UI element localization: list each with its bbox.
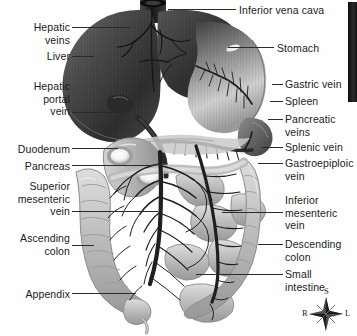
label-inferior-mesenteric-vein: Inferior mesenteric vein	[285, 194, 337, 232]
leader-small-intestine	[196, 274, 283, 275]
anatomy-figure: Hepatic veinsLiverHepatic portal veinDuo…	[0, 0, 357, 336]
compass-label-left: L	[345, 308, 350, 318]
orientation-compass: S R L	[300, 288, 352, 332]
leader-hepatic-portal-vein	[72, 112, 124, 113]
label-spleen: Spleen	[285, 95, 318, 108]
leader-liver	[72, 56, 94, 57]
leader-pancreatic-veins	[268, 119, 283, 120]
compass-label-right: R	[302, 308, 308, 318]
label-hepatic-veins: Hepatic veins	[8, 21, 70, 46]
label-pancreas: Pancreas	[2, 160, 70, 173]
leader-superior-mesenteric-vein	[72, 211, 158, 212]
label-ascending-colon: Ascending colon	[2, 232, 70, 257]
leader-inferior-mesenteric-vein	[222, 212, 283, 213]
label-gastric-vein: Gastric vein	[285, 78, 342, 91]
label-inferior-vena-cava: Inferior vena cava	[239, 4, 324, 17]
label-descending-colon: Descending colon	[285, 238, 341, 263]
leader-stomach	[228, 47, 274, 48]
page-edge-bar	[348, 2, 357, 102]
label-liver: Liver	[8, 50, 70, 63]
leader-pancreas	[72, 165, 150, 166]
label-appendix: Appendix	[2, 288, 70, 301]
label-splenic-vein: Splenic vein	[285, 141, 343, 154]
label-duodenum: Duodenum	[2, 143, 70, 156]
label-hepatic-portal-vein: Hepatic portal vein	[8, 80, 70, 118]
leader-ascending-colon	[72, 245, 94, 246]
leader-splenic-vein	[262, 147, 283, 148]
leader-inferior-vena-cava	[168, 9, 236, 10]
leader-spleen	[270, 101, 283, 102]
label-pancreatic-veins: Pancreatic veins	[285, 113, 336, 138]
leader-hepatic-veins	[72, 27, 130, 28]
compass-label-superior: S	[324, 286, 329, 296]
leader-appendix	[72, 293, 136, 294]
leader-gastroepiploic-vein	[258, 163, 283, 164]
leader-duodenum	[72, 148, 118, 149]
label-gastroepiploic-vein: Gastroepiploic vein	[285, 157, 354, 182]
label-superior-mesenteric-vein: Superior mesenteric vein	[2, 180, 70, 218]
leader-descending-colon	[258, 244, 283, 245]
appendix-organ	[123, 299, 151, 334]
label-stomach: Stomach	[277, 42, 319, 55]
leader-gastric-vein	[272, 84, 283, 85]
